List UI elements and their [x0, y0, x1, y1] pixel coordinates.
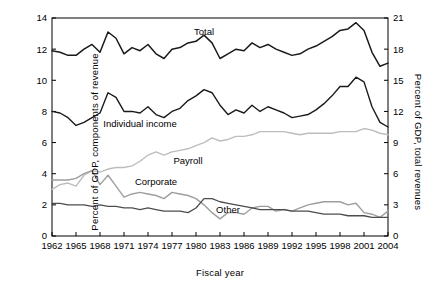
- annotation-total: Total: [194, 26, 214, 37]
- svg-text:10: 10: [36, 75, 47, 86]
- svg-text:1986: 1986: [233, 240, 254, 251]
- svg-text:18: 18: [393, 44, 404, 55]
- svg-text:1965: 1965: [65, 240, 86, 251]
- svg-text:1962: 1962: [41, 240, 62, 251]
- svg-text:12: 12: [36, 44, 47, 55]
- svg-text:14: 14: [36, 12, 47, 23]
- svg-text:3: 3: [393, 199, 398, 210]
- annotation-other: Other: [216, 204, 240, 215]
- svg-text:15: 15: [393, 75, 404, 86]
- svg-text:1971: 1971: [113, 240, 134, 251]
- svg-text:1995: 1995: [305, 240, 326, 251]
- svg-text:4: 4: [42, 168, 47, 179]
- chart-container: Percent of GDP, components of revenue Pe…: [0, 0, 440, 284]
- svg-text:12: 12: [393, 106, 404, 117]
- svg-text:1974: 1974: [137, 240, 158, 251]
- svg-text:1983: 1983: [209, 240, 230, 251]
- svg-text:2004: 2004: [377, 240, 398, 251]
- svg-text:1998: 1998: [329, 240, 350, 251]
- annotation-payroll: Payroll: [173, 155, 202, 166]
- svg-text:1980: 1980: [185, 240, 206, 251]
- svg-text:6: 6: [42, 137, 47, 148]
- annotation-corporate: Corporate: [135, 176, 177, 187]
- y-axis-right-title: Percent of GDP, total revenues: [412, 74, 423, 210]
- plot-area: 02468101214 036912151821 196219651968197…: [0, 0, 440, 284]
- svg-text:1992: 1992: [281, 240, 302, 251]
- svg-text:9: 9: [393, 137, 398, 148]
- svg-text:2: 2: [42, 199, 47, 210]
- svg-text:2001: 2001: [353, 240, 374, 251]
- svg-text:6: 6: [393, 168, 398, 179]
- x-axis-title: Fiscal year: [0, 267, 440, 278]
- y-axis-left-ticks: 02468101214: [36, 12, 56, 241]
- svg-text:1977: 1977: [161, 240, 182, 251]
- svg-text:8: 8: [42, 106, 47, 117]
- series-line-total: [52, 23, 388, 67]
- y-axis-left-title: Percent of GDP, components of revenue: [89, 53, 100, 230]
- series-line-payroll: [52, 129, 388, 190]
- x-axis-ticks: 1962196519681971197419771980198319861989…: [41, 232, 398, 251]
- svg-text:1968: 1968: [89, 240, 110, 251]
- svg-text:1989: 1989: [257, 240, 278, 251]
- annotation-individual-income: Individual income: [103, 118, 176, 129]
- svg-text:21: 21: [393, 12, 404, 23]
